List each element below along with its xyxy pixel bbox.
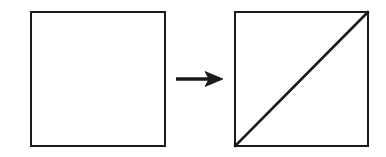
figure-canvas: Square transformed into square with diag… [0,0,386,157]
figure-diagram [0,0,386,157]
left-square-shape [31,12,165,146]
